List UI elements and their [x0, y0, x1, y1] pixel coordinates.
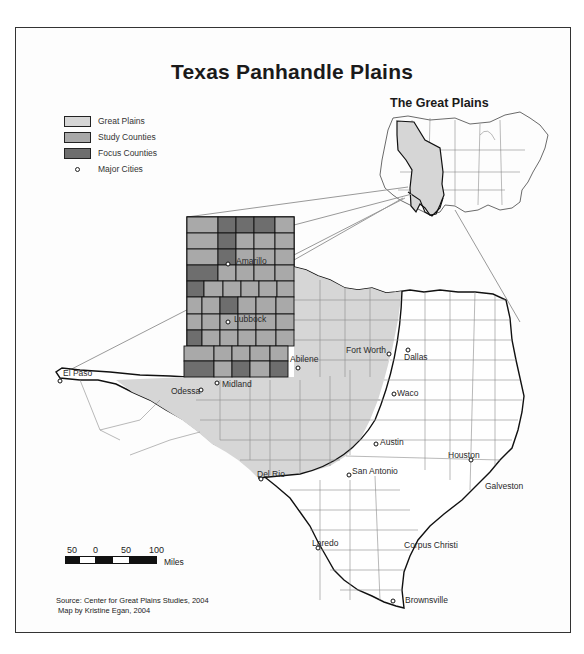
svg-text:Abilene: Abilene: [290, 354, 319, 364]
city-fort-worth: Fort Worth: [346, 345, 391, 356]
scale-tick: 100: [149, 545, 164, 555]
city-el-paso: El Paso: [58, 368, 93, 383]
city-san-antonio: San Antonio: [347, 466, 398, 477]
scale-tick: 50: [67, 545, 77, 555]
svg-text:Galveston: Galveston: [485, 481, 524, 491]
svg-text:Brownsville: Brownsville: [405, 595, 448, 605]
svg-text:Fort Worth: Fort Worth: [346, 345, 386, 355]
svg-text:San Antonio: San Antonio: [352, 466, 398, 476]
svg-text:Corpus Christi: Corpus Christi: [404, 540, 458, 550]
svg-text:Dallas: Dallas: [404, 352, 428, 362]
scale-tick: 0: [93, 545, 98, 555]
scale-tick: 50: [121, 545, 131, 555]
author-text: Map by Kristine Egan, 2004: [56, 606, 209, 616]
city-corpus-christi: Corpus Christi: [404, 540, 458, 550]
city-odessa: Odessa: [171, 386, 203, 396]
svg-text:Del Rio: Del Rio: [257, 469, 285, 479]
svg-text:Odessa: Odessa: [171, 386, 201, 396]
svg-text:Laredo: Laredo: [312, 538, 339, 548]
scale-bar-graphic: [65, 556, 157, 564]
svg-text:Austin: Austin: [380, 437, 404, 447]
source-text: Source: Center for Great Plains Studies,…: [56, 596, 209, 606]
svg-text:Amarillo: Amarillo: [236, 256, 267, 266]
svg-text:Houston: Houston: [448, 450, 480, 460]
county-grid: [184, 217, 294, 377]
svg-text:Midland: Midland: [222, 379, 252, 389]
city-galveston: Galveston: [485, 481, 524, 491]
svg-text:El Paso: El Paso: [63, 368, 93, 378]
scale-unit: Miles: [164, 557, 184, 567]
source-credit: Source: Center for Great Plains Studies,…: [56, 596, 209, 616]
svg-text:Lubbock: Lubbock: [234, 314, 267, 324]
svg-text:Waco: Waco: [397, 388, 419, 398]
